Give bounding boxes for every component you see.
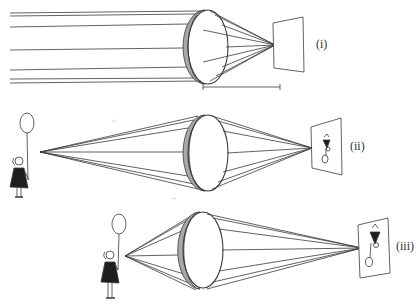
panel-iii [101, 212, 390, 298]
lens-ii [183, 115, 228, 191]
panel-label-iii: (iii) [396, 239, 414, 254]
panel-label-ii: (ii) [350, 139, 365, 154]
girl-with-balloon-icon [10, 113, 34, 197]
panel-i [10, 10, 304, 90]
screen-i [273, 17, 304, 72]
focal-length-marker [203, 84, 280, 90]
screen-iii [358, 218, 390, 278]
panel-ii [10, 113, 342, 197]
panel-label-i: (i) [316, 37, 327, 52]
rays-iii [125, 213, 362, 290]
parallel-rays [10, 11, 275, 83]
rays-ii [40, 116, 312, 189]
girl-with-balloon-icon [101, 214, 126, 298]
lens-iii [178, 212, 223, 289]
